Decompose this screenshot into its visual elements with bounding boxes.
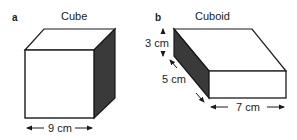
cuboid-front-face <box>209 71 286 98</box>
cube-front-face <box>25 50 94 118</box>
arrow-up-left-icon <box>170 60 177 68</box>
cube-title: Cube <box>61 10 87 22</box>
cuboid-length-label: 7 cm <box>236 101 260 113</box>
cuboid-height-label: 3 cm <box>145 37 169 49</box>
shapes-diagram: a Cube 9 cm b Cuboid 3 cm 5 cm 7 cm <box>0 0 297 140</box>
cuboid-title: Cuboid <box>195 10 230 22</box>
panel-letter-b: b <box>155 12 161 23</box>
arrow-down-right-icon <box>196 93 204 102</box>
cuboid-depth-label: 5 cm <box>162 73 186 85</box>
cuboid-figure: b Cuboid 3 cm 5 cm 7 cm <box>145 10 286 113</box>
cube-figure: a Cube 9 cm <box>12 10 115 134</box>
panel-letter-a: a <box>12 12 18 23</box>
cube-width-label: 9 cm <box>48 122 72 134</box>
